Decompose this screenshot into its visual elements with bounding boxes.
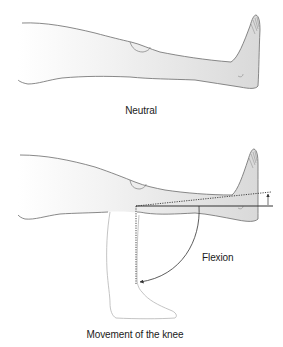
flexion-label: Flexion	[202, 252, 234, 263]
caption-movement-of-knee: Movement of the knee	[87, 329, 184, 340]
flexion-leg-fill	[18, 149, 258, 221]
knee-movement-figure: Neutral	[0, 0, 283, 347]
flexion-arc-arrow	[140, 206, 199, 282]
flexion-leg-illustration	[0, 0, 283, 347]
flexed-lower-leg-ghost-outline	[107, 212, 177, 319]
